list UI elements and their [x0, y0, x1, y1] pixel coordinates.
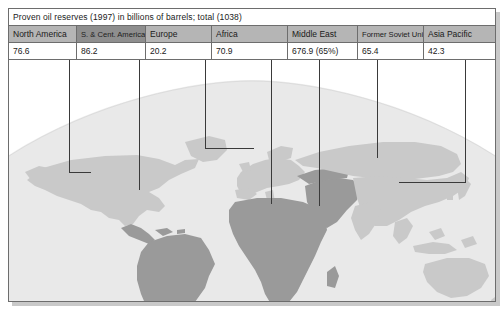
value-europe: 20.2: [146, 43, 212, 59]
column-header-former-soviet-union: Former Soviet Union: [358, 26, 424, 42]
table-title-row: Proven oil reserves (1997) in billions o…: [9, 9, 495, 26]
data-table: Proven oil reserves (1997) in billions o…: [9, 9, 495, 60]
value-north-america: 76.6: [9, 43, 77, 59]
column-header-middle-east: Middle East: [288, 26, 358, 42]
value-former-soviet-union: 65.4: [358, 43, 424, 59]
world-map-panel: [9, 60, 495, 301]
column-header-europe: Europe: [146, 26, 212, 42]
value-middle-east: 676.9 (65%): [288, 43, 358, 59]
figure-title: Proven oil reserves (1997) in billions o…: [9, 12, 242, 22]
figure-frame: Proven oil reserves (1997) in billions o…: [8, 8, 496, 302]
table-header-row: North America S. & Cent. America Europe …: [9, 26, 495, 43]
column-header-s-and-cent-america: S. & Cent. America: [77, 26, 146, 42]
value-asia-pacific: 42.3: [424, 43, 493, 59]
table-value-row: 76.6 86.2 20.2 70.9 676.9 (65%) 65.4 42.…: [9, 43, 495, 60]
value-s-and-cent-america: 86.2: [77, 43, 146, 59]
column-header-africa: Africa: [212, 26, 288, 42]
column-header-north-america: North America: [9, 26, 77, 42]
figure-root: Proven oil reserves (1997) in billions o…: [0, 0, 504, 322]
value-africa: 70.9: [212, 43, 288, 59]
world-map-svg: [9, 60, 495, 301]
column-header-asia-pacific: Asia Pacific: [424, 26, 493, 42]
